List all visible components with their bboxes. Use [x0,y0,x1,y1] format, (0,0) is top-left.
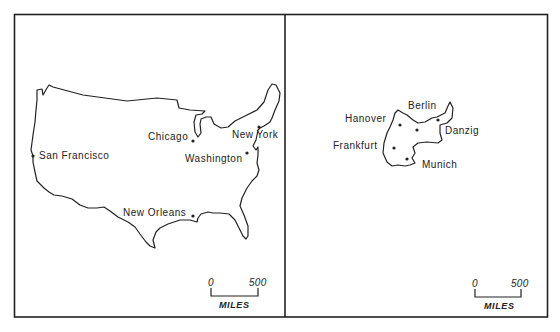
scale-start-left: 0 [208,278,214,288]
city-dot-hanover [398,123,401,126]
scale-end-right: 500 [511,279,529,289]
country-outline-left [31,84,280,248]
city-label-new-orleans: New Orleans [123,208,186,218]
city-dot-new-orleans [191,214,194,217]
city-label-hanover: Hanover [345,114,386,124]
city-dot-munich [405,157,408,160]
city-label-washington: Washington [185,154,242,164]
scale-start-right: 0 [472,279,478,289]
city-label-frankfurt: Frankfurt [333,141,378,151]
city-dot-san-francisco [31,154,34,157]
city-label-berlin: Berlin [408,101,437,111]
city-dot-berlin [415,128,418,131]
city-dot-frankfurt [392,146,395,149]
city-label-chicago: Chicago [148,132,188,142]
scale-unit-right: MILES [484,302,515,311]
scale-bar-left [211,288,258,296]
map-frame [15,15,548,318]
city-dot-danzig [436,118,439,121]
city-label-danzig: Danzig [445,126,479,136]
city-label-munich: Munich [422,160,457,170]
city-label-san-francisco: San Francisco [39,151,109,161]
scale-end-left: 500 [249,278,267,288]
city-dot-washington [245,151,248,154]
city-dot-chicago [191,139,194,142]
country-outline-right [383,102,453,166]
scale-unit-left: MILES [219,301,250,310]
city-label-new-york: New York [232,130,278,140]
map-comparison-figure: San Francisco Chicago New York Washingto… [0,0,560,332]
scale-bar-right [475,289,521,297]
